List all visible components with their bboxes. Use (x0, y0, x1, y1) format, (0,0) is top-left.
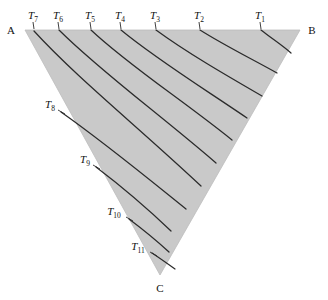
isotherm-label-t3: T3 (150, 9, 160, 24)
isotherm-leader-t9 (93, 165, 100, 169)
ternary-isotherm-diagram: T1T2T3T4T5T6T7T8T9T10T11 ABC (0, 0, 328, 300)
isotherm-label-t4: T4 (115, 9, 125, 24)
isotherm-label-t1: T1 (255, 9, 265, 24)
isotherm-label-t6: T6 (53, 9, 63, 24)
triangle-field (25, 30, 300, 275)
vertex-label-a: A (7, 24, 15, 36)
isotherm-label-t7: T7 (28, 9, 38, 24)
isotherm-label-t9: T9 (80, 153, 90, 168)
vertex-label-b: B (308, 24, 315, 36)
isotherm-label-t2: T2 (194, 9, 204, 24)
isotherm-label-t5: T5 (85, 9, 95, 24)
isotherm-label-t8: T8 (45, 98, 55, 113)
isotherm-label-t10: T10 (107, 205, 121, 220)
isotherm-leader-t8 (58, 110, 65, 114)
figure-root: T1T2T3T4T5T6T7T8T9T10T11 ABC (0, 0, 328, 300)
vertex-label-c: C (156, 282, 163, 294)
